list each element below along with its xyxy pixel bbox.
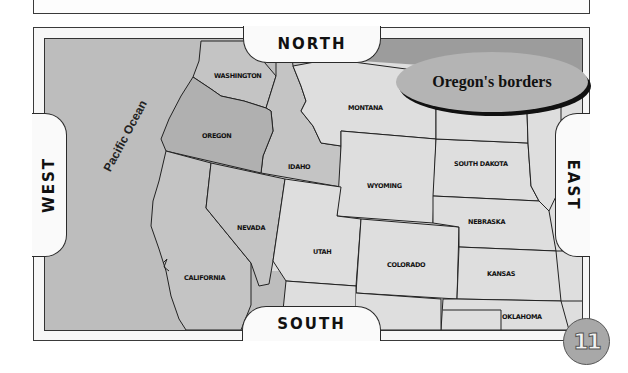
state-label-south-dakota: SOUTH DAKOTA xyxy=(454,160,508,168)
page-number: 11 xyxy=(573,329,600,354)
map-title: Oregon's borders xyxy=(432,73,551,91)
west-label: WEST xyxy=(40,157,58,213)
compass-tab-west: WEST xyxy=(32,113,67,257)
compass-tab-south: SOUTH xyxy=(242,306,381,341)
state-label-kansas: KANSAS xyxy=(487,270,515,278)
page-number-badge: 11 xyxy=(563,318,610,365)
east-label: EAST xyxy=(564,160,582,211)
top-text-panel xyxy=(33,0,590,14)
state-label-wyoming: WYOMING xyxy=(367,182,402,190)
state-label-nevada: NEVADA xyxy=(237,224,265,232)
title-oval: Oregon's borders xyxy=(396,52,588,112)
state-label-washington: WASHINGTON xyxy=(214,72,262,80)
compass-tab-north: NORTH xyxy=(243,26,381,63)
compass-tab-east: EAST xyxy=(555,113,590,257)
north-label: NORTH xyxy=(278,35,347,53)
state-label-colorado: COLORADO xyxy=(387,261,425,269)
state-label-nebraska: NEBRASKA xyxy=(468,218,505,226)
state-label-oklahoma: OKLAHOMA xyxy=(502,313,542,321)
state-label-oregon: OREGON xyxy=(202,132,231,140)
state-label-idaho: IDAHO xyxy=(288,163,310,171)
state-label-utah: UTAH xyxy=(313,248,331,256)
south-label: SOUTH xyxy=(277,315,346,333)
state-label-california: CALIFORNIA xyxy=(184,274,225,282)
state-label-montana: MONTANA xyxy=(348,104,383,112)
